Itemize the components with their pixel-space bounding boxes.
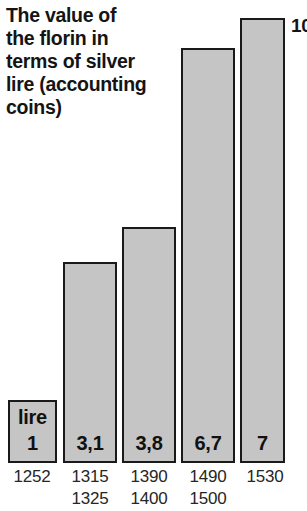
bar-chart-plot-area: lire 1 3,1 3,8 6,7 7 10 xyxy=(0,0,307,464)
bar-1315-1325: 3,1 xyxy=(63,262,117,463)
bar-value-label: 3,8 xyxy=(124,432,174,455)
x-axis-year-labels: 1252 1315 1325 1390 1400 1490 1500 1530 xyxy=(0,466,307,511)
year-label-group-5: 1530 xyxy=(236,466,294,488)
bar-unit-label: lire xyxy=(10,406,55,429)
year-label-group-1: 1252 xyxy=(2,466,62,488)
year-label: 1490 xyxy=(179,466,237,488)
top-value-annotation: 10 xyxy=(291,15,307,37)
year-label: 1252 xyxy=(2,466,62,488)
year-label: 1530 xyxy=(236,466,294,488)
year-label-group-3: 1390 1400 xyxy=(120,466,178,510)
year-label-group-4: 1490 1500 xyxy=(179,466,237,510)
year-label: 1325 xyxy=(61,488,119,510)
bar-value-label: 3,1 xyxy=(65,432,115,455)
chart-canvas: The value of the florin in terms of silv… xyxy=(0,0,307,511)
bar-1252: lire 1 xyxy=(8,400,57,463)
bar-1390-1400: 3,8 xyxy=(122,227,176,463)
bar-value-label: 6,7 xyxy=(183,432,233,455)
bar-1530: 7 xyxy=(240,18,285,463)
bar-1490-1500: 6,7 xyxy=(181,48,235,463)
bar-value-label: 7 xyxy=(242,432,283,455)
year-label: 1315 xyxy=(61,466,119,488)
year-label-group-2: 1315 1325 xyxy=(61,466,119,510)
year-label: 1400 xyxy=(120,488,178,510)
year-label: 1390 xyxy=(120,466,178,488)
bar-value-label: 1 xyxy=(10,432,55,455)
year-label: 1500 xyxy=(179,488,237,510)
